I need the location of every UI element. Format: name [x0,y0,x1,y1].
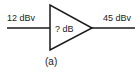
input-level-label: 12 dBv [7,14,35,23]
gain-label: ? dB [55,25,74,34]
amplifier-diagram: 12 dBv ? dB 45 dBv (a) [0,0,140,75]
amplifier-svg [0,0,140,75]
figure-caption: (a) [45,57,57,67]
output-level-label: 45 dBv [103,14,131,23]
